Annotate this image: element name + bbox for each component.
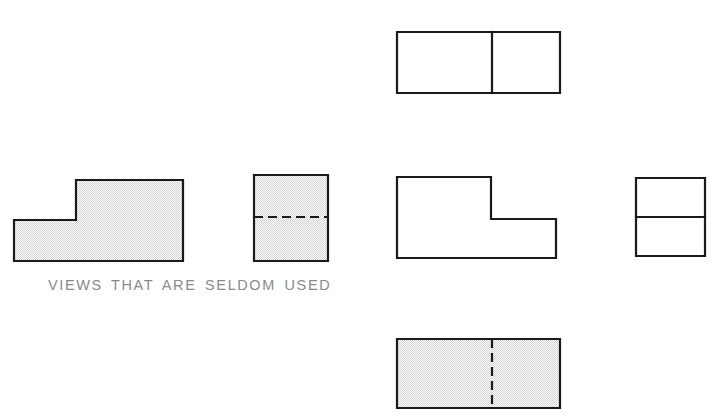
technical-drawing-canvas: VIEWS THAT ARE SELDOM USED xyxy=(0,0,712,415)
rear-view-outline xyxy=(14,180,183,261)
orthographic-views-svg xyxy=(0,0,712,415)
view-right-side-view xyxy=(636,178,705,256)
view-front-view xyxy=(397,177,556,258)
seldom-used-caption: VIEWS THAT ARE SELDOM USED xyxy=(48,278,331,293)
bottom-view-outline xyxy=(397,339,560,408)
view-bottom-view xyxy=(397,339,560,408)
front-view-outline xyxy=(397,177,556,258)
view-top-view xyxy=(397,32,560,93)
top-view-outline xyxy=(397,32,560,93)
view-rear-view xyxy=(14,180,183,261)
view-left-side-view xyxy=(254,175,328,261)
